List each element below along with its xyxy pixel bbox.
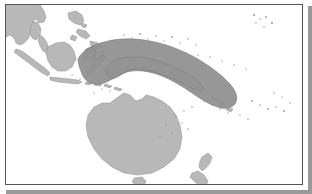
island-dot: [175, 116, 177, 118]
island-dot: [247, 118, 249, 120]
island-dot: [191, 106, 193, 108]
map-canvas: [6, 5, 302, 184]
island-dot: [197, 54, 198, 55]
island-dot: [163, 40, 164, 41]
distribution-map-figure: [0, 0, 312, 194]
island-dot: [187, 128, 189, 130]
island-dot: [267, 108, 269, 110]
island-dot: [233, 64, 235, 66]
island-dot: [165, 124, 166, 125]
island-dot: [147, 38, 148, 39]
island-dot: [255, 22, 256, 23]
island-dot: [273, 92, 275, 94]
island-dot: [183, 110, 184, 111]
island-dot: [281, 96, 282, 97]
map-frame-border: [5, 4, 303, 185]
island-dot: [159, 136, 160, 137]
island-dot: [259, 18, 261, 20]
island-dot: [219, 108, 221, 110]
island-dot: [253, 14, 255, 16]
island-dot: [265, 16, 267, 18]
island-dot: [93, 92, 94, 93]
island-dot: [251, 100, 253, 102]
island-dot: [245, 68, 246, 69]
island-dot: [101, 88, 102, 89]
island-dot: [263, 26, 264, 27]
island-dot: [123, 34, 125, 36]
island-dot: [131, 37, 132, 38]
island-dot: [275, 106, 277, 108]
figure-shadow-right: [308, 6, 312, 194]
island-dot: [221, 60, 222, 61]
island-dot: [283, 110, 285, 112]
island-dot: [79, 78, 80, 79]
island-dot: [259, 104, 261, 106]
island-dot: [109, 90, 110, 91]
island-dot: [139, 33, 141, 35]
island-dot: [181, 122, 182, 123]
island-dot: [289, 102, 291, 104]
island-dot: [239, 114, 240, 115]
island-dot: [171, 36, 173, 38]
island-dot: [227, 112, 228, 113]
island-dot: [179, 42, 180, 43]
island-dot: [71, 74, 72, 75]
island-dot: [155, 35, 157, 37]
island-dot: [187, 38, 189, 40]
island-dot: [171, 132, 172, 133]
island-dot: [209, 56, 211, 58]
island-dot: [271, 22, 273, 24]
island-dot: [195, 44, 196, 45]
figure-shadow-bottom: [6, 190, 312, 194]
